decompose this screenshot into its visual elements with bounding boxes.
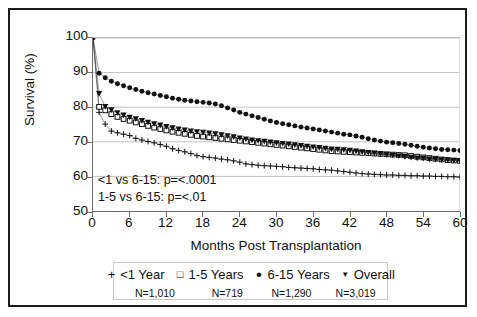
legend-item-label: Overall	[354, 267, 395, 282]
x-tick-label-30: 30	[261, 216, 291, 230]
y-tick-label-100: 100	[48, 29, 88, 43]
x-tick-mark-48	[386, 212, 387, 217]
x-tick-label-54: 54	[408, 216, 438, 230]
legend-n-label: N=3,019	[324, 287, 387, 299]
x-tick-mark-12	[166, 212, 167, 217]
x-tick-label-0: 0	[77, 216, 107, 230]
y-tick-label-80: 80	[48, 99, 88, 113]
x-tick-mark-18	[202, 212, 203, 217]
annotation-line-2: 1-5 vs 6-15: p=<.01	[98, 190, 206, 204]
x-axis-title: Months Post Transplantation	[92, 238, 460, 253]
legend-item-label: 1-5 Years	[189, 267, 244, 282]
y-tick-label-90: 90	[48, 64, 88, 78]
legend-marker-icon: •	[254, 266, 265, 283]
y-axis-title: Survival (%)	[22, 35, 37, 145]
x-tick-mark-6	[129, 212, 130, 217]
x-tick-mark-60	[460, 212, 461, 217]
x-tick-label-60: 60	[445, 216, 475, 230]
series-6-15-years	[93, 38, 460, 153]
legend-item-6-15-years[interactable]: •6-15 Years	[254, 266, 330, 283]
legend-item--1-year[interactable]: +<1 Year	[106, 267, 164, 282]
x-tick-label-42: 42	[335, 216, 365, 230]
legend-n-label: N=1,010	[114, 287, 196, 299]
x-tick-label-24: 24	[224, 216, 254, 230]
x-tick-mark-24	[239, 212, 240, 217]
x-tick-label-36: 36	[298, 216, 328, 230]
x-tick-label-6: 6	[114, 216, 144, 230]
legend-n-row: N=1,010N=719N=1,290N=3,019	[114, 285, 387, 300]
legend-n-label: N=719	[196, 287, 259, 299]
x-tick-label-18: 18	[187, 216, 217, 230]
legend-item-label: <1 Year	[120, 267, 164, 282]
legend-series-row: +<1 Year□1-5 Years•6-15 Years▼Overall	[114, 265, 387, 284]
legend-marker-icon: +	[106, 268, 117, 281]
x-tick-mark-0	[92, 212, 93, 217]
x-tick-mark-42	[350, 212, 351, 217]
x-tick-label-48: 48	[371, 216, 401, 230]
legend-n-label: N=1,290	[259, 287, 325, 299]
annotation-line-1: <1 vs 6-15: p=<.0001	[98, 173, 217, 187]
x-tick-mark-54	[423, 212, 424, 217]
y-tick-label-60: 60	[48, 169, 88, 183]
legend-marker-icon: □	[175, 269, 186, 280]
x-tick-mark-36	[313, 212, 314, 217]
x-tick-label-12: 12	[151, 216, 181, 230]
y-tick-label-70: 70	[48, 134, 88, 148]
figure-frame: Survival (%) 1009080706050 <1 vs 6-15: p…	[8, 8, 467, 307]
legend-item-label: 6-15 Years	[268, 267, 330, 282]
x-tick-mark-30	[276, 212, 277, 217]
survival-curve-chart: Survival (%) 1009080706050 <1 vs 6-15: p…	[10, 10, 465, 305]
legend-item-1-5-years[interactable]: □1-5 Years	[175, 267, 244, 282]
legend-item-overall[interactable]: ▼Overall	[340, 267, 395, 282]
legend-marker-icon: ▼	[340, 271, 351, 279]
legend: +<1 Year□1-5 Years•6-15 Years▼Overall N=…	[113, 262, 388, 300]
